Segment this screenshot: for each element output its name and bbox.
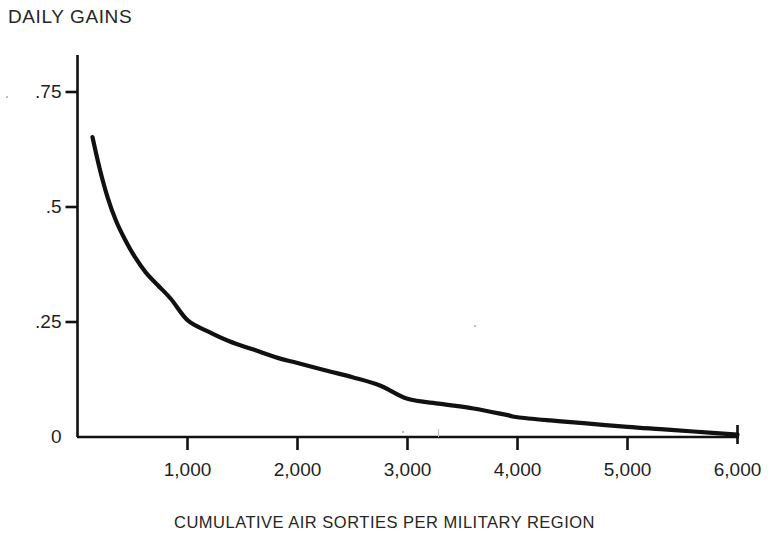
x-axis-title: CUMULATIVE AIR SORTIES PER MILITARY REGI… [0,513,769,532]
scan-speck [6,96,8,98]
y-tick-label: .5 [10,196,62,218]
scan-speck [474,325,476,327]
y-tick-label: .75 [10,81,62,103]
axes-group [77,55,739,444]
x-tick-label: 3,000 [384,459,432,481]
x-tick-label: 5,000 [604,459,652,481]
data-curve-daily-gains [92,137,737,435]
y-tick-marks [66,92,78,322]
x-tick-marks [188,437,628,450]
y-tick-label: 0 [10,426,62,448]
scan-speck [402,431,404,433]
y-tick-label: .25 [10,311,62,333]
x-tick-label: 4,000 [494,459,542,481]
x-tick-label: 2,000 [274,459,322,481]
scan-speck [438,429,439,437]
x-tick-label: 6,000 [714,459,762,481]
chart-figure: DAILY GAINS 0.25.5.75 1,0002,0003,0004,0… [0,0,769,549]
x-tick-label: 1,000 [164,459,212,481]
